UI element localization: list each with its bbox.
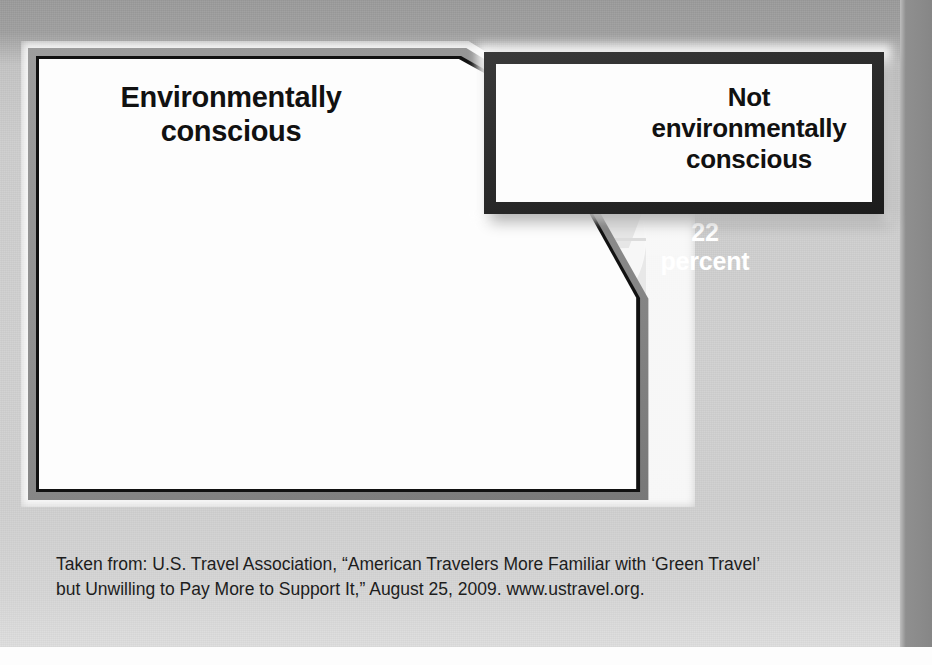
source-caption-line1: Taken from: U.S. Travel Association, “Am… [56,552,796,577]
source-caption: Taken from: U.S. Travel Association, “Am… [56,552,796,603]
right-gutter-strip [900,0,932,648]
source-caption-line2: but Unwilling to Pay More to Support It,… [56,577,796,602]
callout-right-label-line1: Not [634,82,864,113]
callout-right-label-line2: environmentally [634,113,864,144]
callout-right-label-line3: conscious [634,144,864,175]
bottom-white-strip [0,647,932,665]
callout-right-label: Not environmentally conscious [634,82,864,176]
callout-left-label-line2: conscious [66,114,396,148]
callout-not-environmentally-conscious[interactable]: Not environmentally conscious [484,52,884,214]
callout-left-label-line1: Environmentally [66,80,396,114]
callout-left-label: Environmentally conscious [66,80,396,148]
slide-canvas: 78 percent 22 percent Environmentally co… [0,0,932,665]
